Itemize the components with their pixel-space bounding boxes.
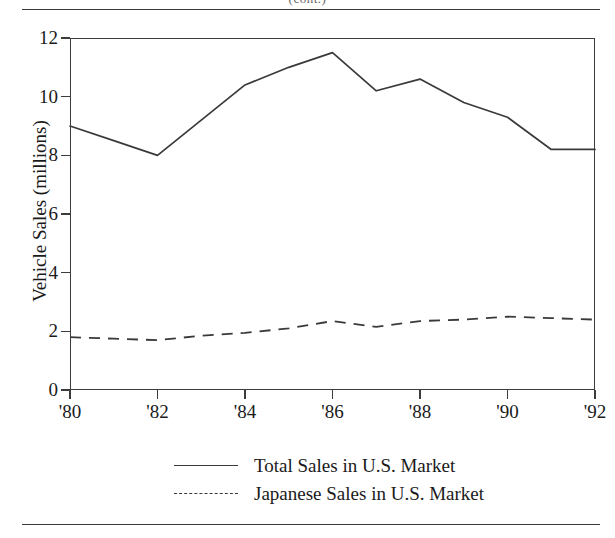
y-tick xyxy=(61,331,70,332)
series-line-japanese xyxy=(70,317,595,340)
x-tick-label: '92 xyxy=(565,402,615,421)
y-tick-label: 4 xyxy=(18,263,58,282)
figure-page: (cont.) Vehicle Sales (millions) 0246810… xyxy=(0,0,615,538)
series-line-total xyxy=(70,53,595,156)
x-tick xyxy=(507,390,508,399)
y-tick-label: 6 xyxy=(18,204,58,223)
x-tick-label: '90 xyxy=(478,402,538,421)
y-tick xyxy=(61,213,70,214)
legend-label-japanese: Japanese Sales in U.S. Market xyxy=(242,483,484,505)
y-tick xyxy=(61,272,70,273)
x-tick-label: '84 xyxy=(215,402,275,421)
x-tick-label: '82 xyxy=(128,402,188,421)
y-tick-label: 2 xyxy=(18,321,58,340)
legend-label-total: Total Sales in U.S. Market xyxy=(242,455,455,477)
y-tick-label: 8 xyxy=(18,145,58,164)
x-tick xyxy=(332,390,333,399)
x-tick-label: '86 xyxy=(303,402,363,421)
x-tick-label: '88 xyxy=(390,402,450,421)
legend-swatch-dashed-icon xyxy=(170,487,242,501)
x-tick-label: '80 xyxy=(40,402,100,421)
y-tick xyxy=(61,37,70,38)
x-tick xyxy=(419,390,420,399)
legend-item-total: Total Sales in U.S. Market xyxy=(170,452,500,480)
y-tick xyxy=(61,155,70,156)
plot-area: 024681012 '80'82'84'86'88'90'92 xyxy=(70,38,595,390)
x-tick xyxy=(157,390,158,399)
chart-legend: Total Sales in U.S. Market Japanese Sale… xyxy=(170,452,500,508)
y-tick xyxy=(61,96,70,97)
legend-swatch-solid-icon xyxy=(170,459,242,473)
x-tick xyxy=(594,390,595,399)
x-tick xyxy=(244,390,245,399)
y-tick-label: 12 xyxy=(18,28,58,47)
y-tick-label: 0 xyxy=(18,380,58,399)
line-chart: Vehicle Sales (millions) 024681012 '80'8… xyxy=(0,0,615,538)
bottom-rule xyxy=(22,524,600,525)
legend-item-japanese: Japanese Sales in U.S. Market xyxy=(170,480,500,508)
x-tick xyxy=(69,390,70,399)
series-lines xyxy=(70,38,595,390)
y-tick-label: 10 xyxy=(18,87,58,106)
